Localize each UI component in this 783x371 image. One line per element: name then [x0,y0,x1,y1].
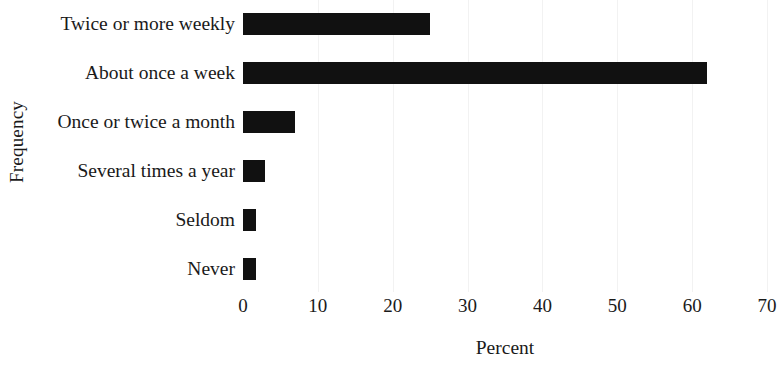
category-label-3: Several times a year [30,160,235,182]
x-tick-label-0: 0 [238,294,248,318]
plot-area [243,0,767,292]
x-axis-ticks: 010203040506070 [243,294,767,320]
bar-3 [243,160,265,182]
category-label-1: About once a week [30,62,235,84]
x-tick-label-40: 40 [533,294,552,318]
category-label-5: Never [30,258,235,280]
x-tick-label-70: 70 [758,294,777,318]
bar-4 [243,209,256,231]
category-label-4: Seldom [30,209,235,231]
x-tick-label-20: 20 [383,294,402,318]
x-tick-label-60: 60 [683,294,702,318]
gridline-40 [542,0,543,292]
category-label-2: Once or twice a month [30,111,235,133]
gridline-50 [617,0,618,292]
gridline-30 [468,0,469,292]
y-axis-title: Frequency [4,0,30,292]
gridline-10 [318,0,319,292]
bar-chart: Frequency Twice or more weekly About onc… [0,0,783,371]
x-tick-label-10: 10 [308,294,327,318]
x-axis-title: Percent [243,336,767,360]
gridline-70 [767,0,768,292]
x-tick-label-30: 30 [458,294,477,318]
bar-2 [243,111,295,133]
gridline-20 [393,0,394,292]
category-label-0: Twice or more weekly [30,13,235,35]
x-tick-label-50: 50 [608,294,627,318]
gridline-60 [692,0,693,292]
category-axis-labels: Twice or more weekly About once a week O… [30,0,235,292]
bar-1 [243,62,707,84]
bar-0 [243,13,430,35]
bar-5 [243,258,256,280]
